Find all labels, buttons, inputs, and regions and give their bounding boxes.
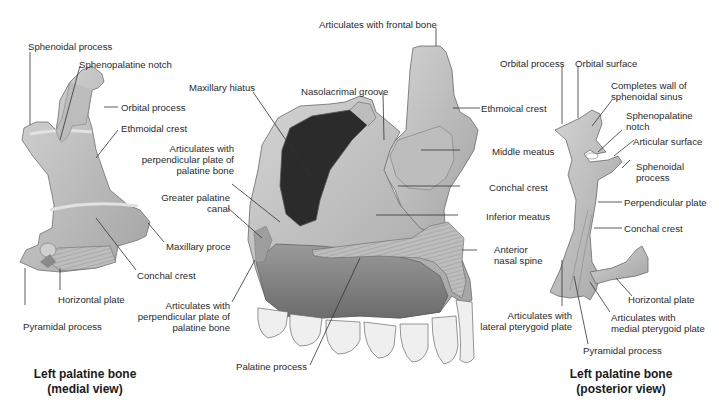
label-ethmoidal-crest: Ethmoidal crest bbox=[121, 123, 187, 134]
label-conchal-crest-right: Conchal crest bbox=[624, 223, 683, 234]
articulates-perp-lower-line2: perpendicular plate of bbox=[128, 311, 230, 322]
sphenoidal-line2: process bbox=[636, 172, 684, 183]
label-maxillary-process: Maxillary proce bbox=[166, 241, 231, 252]
label-articulates-medial-pterygoid: Articulates with medial pterygoid plate bbox=[611, 312, 705, 334]
label-horizontal-plate-left: Horizontal plate bbox=[58, 294, 125, 305]
label-nasolacrimal-groove: Nasolacrimal groove bbox=[301, 86, 388, 97]
label-perpendicular-plate: Perpendicular plate bbox=[624, 197, 707, 208]
caption-medial-line2: (medial view) bbox=[20, 382, 150, 397]
label-articulates-frontal: Articulates with frontal bone bbox=[319, 19, 437, 30]
label-greater-palatine-canal: Greater palatine canal bbox=[150, 192, 230, 214]
articulates-medial-line1: Articulates with bbox=[611, 312, 705, 323]
anterior-nasal-line1: Anterior bbox=[494, 244, 543, 255]
label-ethmoidal-crest-maxilla: Ethmoical crest bbox=[481, 103, 547, 114]
label-pyramidal-process-left: Pyramidal process bbox=[23, 321, 102, 332]
label-anterior-nasal-spine: Anterior nasal spine bbox=[494, 244, 543, 266]
label-palatine-process: Palatine process bbox=[236, 361, 307, 372]
caption-posterior-line2: (posterior view) bbox=[556, 382, 686, 397]
articulates-lateral-line1: Articulates with bbox=[472, 310, 572, 321]
label-sphenopalatine-notch-right: Sphenopalatine notch bbox=[626, 110, 693, 132]
caption-medial-view: Left palatine bone (medial view) bbox=[20, 367, 150, 397]
label-orbital-process: Orbital process bbox=[121, 102, 186, 113]
label-articular-surface: Articular surface bbox=[633, 136, 702, 147]
articulates-perp-upper-line1: Articulates with bbox=[130, 143, 234, 154]
label-sphenoidal-process-right: Sphenoidal process bbox=[636, 161, 684, 183]
completes-wall-line2: sphenoidal sinus bbox=[611, 91, 687, 102]
label-middle-meatus: Middle meatus bbox=[492, 146, 554, 157]
label-conchal-crest-maxilla: Conchal crest bbox=[489, 182, 548, 193]
sphenopalatine-line1: Sphenopalatine bbox=[626, 110, 693, 121]
label-articulates-perp-lower: Articulates with perpendicular plate of … bbox=[128, 300, 230, 333]
label-completes-wall: Completes wall of sphenoidal sinus bbox=[611, 80, 687, 102]
articulates-perp-lower-line3: palatine bone bbox=[128, 322, 230, 333]
label-orbital-process-right: Orbital process bbox=[500, 58, 565, 69]
label-maxillary-hiatus: Maxillary hiatus bbox=[189, 82, 255, 93]
caption-medial-line1: Left palatine bone bbox=[20, 367, 150, 382]
label-orbital-surface: Orbital surface bbox=[575, 58, 637, 69]
label-inferior-meatus: Inferior meatus bbox=[486, 211, 550, 222]
label-conchal-crest-left: Conchal crest bbox=[137, 270, 196, 281]
sphenopalatine-line2: notch bbox=[626, 121, 693, 132]
label-pyramidal-process-right: Pyramidal process bbox=[583, 345, 662, 356]
anterior-nasal-line2: nasal spine bbox=[494, 255, 543, 266]
label-sphenopalatine-notch: Sphenopalatine notch bbox=[79, 59, 172, 70]
greater-palatine-line2: canal bbox=[150, 203, 230, 214]
articulates-perp-lower-line1: Articulates with bbox=[128, 300, 230, 311]
label-articulates-lateral-pterygoid: Articulates with lateral pterygoid plate bbox=[472, 310, 572, 332]
caption-posterior-line1: Left palatine bone bbox=[556, 367, 686, 382]
articulates-medial-line2: medial pterygoid plate bbox=[611, 323, 705, 334]
sphenoidal-line1: Sphenoidal bbox=[636, 161, 684, 172]
completes-wall-line1: Completes wall of bbox=[611, 80, 687, 91]
label-sphenoidal-process: Sphenoidal process bbox=[28, 41, 112, 52]
articulates-perp-upper-line2: perpendicular plate of bbox=[130, 154, 234, 165]
label-articulates-perp-upper: Articulates with perpendicular plate of … bbox=[130, 143, 234, 176]
articulates-perp-upper-line3: palatine bone bbox=[130, 165, 234, 176]
caption-posterior-view: Left palatine bone (posterior view) bbox=[556, 367, 686, 397]
articulates-lateral-line2: lateral pterygoid plate bbox=[472, 321, 572, 332]
greater-palatine-line1: Greater palatine bbox=[150, 192, 230, 203]
label-horizontal-plate-right: Horizontal plate bbox=[628, 294, 695, 305]
